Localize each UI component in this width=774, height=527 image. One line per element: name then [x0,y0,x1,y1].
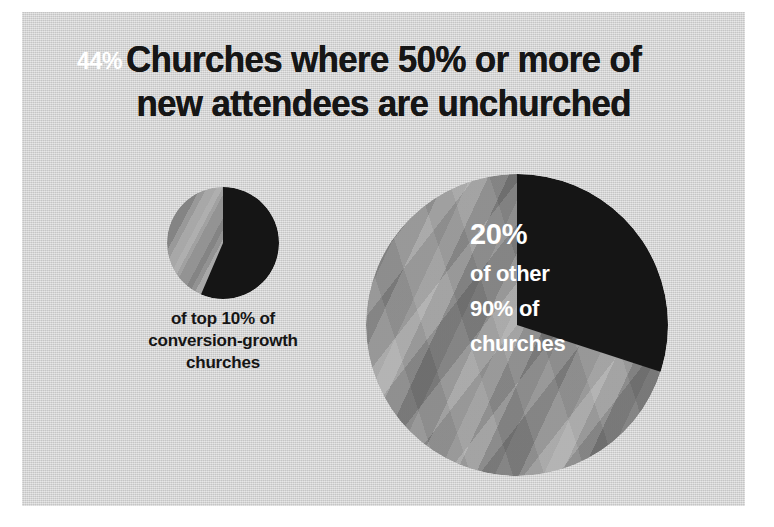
page-title-line-1: Churches where 50% or more of [44,38,724,82]
page-title-line-2: new attendees are unchurched [44,82,724,126]
pie-small-caption: of top 10% of conversion-growth churches [93,308,353,374]
pie-small-caption-line-2: conversion-growth [93,330,353,352]
pie-small-caption-line-3: churches [93,352,353,374]
pie-large-value-label: 20% [470,218,640,251]
pie-small-value-label: 44% [77,49,137,73]
pie-chart-top-10-percent [167,187,279,299]
pie-small-graphic [167,187,279,299]
pie-large-desc-line-2: 90% of [470,291,640,326]
chart-panel: Churches where 50% or more of new attend… [22,12,745,506]
pie-small-caption-line-1: of top 10% of [93,308,353,330]
pie-large-desc-line-3: churches [470,326,640,361]
page-title: Churches where 50% or more of new attend… [44,38,724,126]
slide-canvas: Churches where 50% or more of new attend… [0,0,774,527]
pie-large-label-block: 20% of other 90% of churches [470,218,640,361]
pie-large-desc-line-1: of other [470,256,640,291]
